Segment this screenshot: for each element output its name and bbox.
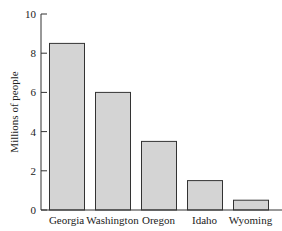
x-category-label: Georgia: [49, 214, 84, 226]
x-category-label: Washington: [86, 214, 139, 226]
bar-oregon: [142, 141, 177, 210]
x-category-label: Wyoming: [229, 214, 273, 226]
bars: [50, 43, 269, 210]
bar-wyoming: [234, 200, 269, 210]
bar-georgia: [50, 43, 85, 210]
y-tick-label: 6: [31, 86, 37, 98]
y-axis-title: Millions of people: [8, 71, 20, 152]
y-tick-label: 10: [25, 8, 37, 20]
bar-washington: [96, 92, 131, 210]
y-tick-label: 2: [31, 165, 37, 177]
x-category-label: Idaho: [192, 214, 218, 226]
bar-chart: 0246810 GeorgiaWashingtonOregonIdahoWyom…: [0, 0, 282, 231]
y-tick-label: 0: [31, 204, 37, 216]
x-axis: GeorgiaWashingtonOregonIdahoWyoming: [41, 210, 282, 226]
bar-idaho: [188, 181, 223, 210]
y-tick-label: 4: [31, 126, 37, 138]
x-category-label: Oregon: [142, 214, 175, 226]
y-tick-label: 8: [31, 47, 37, 59]
y-axis: 0246810: [25, 8, 47, 216]
